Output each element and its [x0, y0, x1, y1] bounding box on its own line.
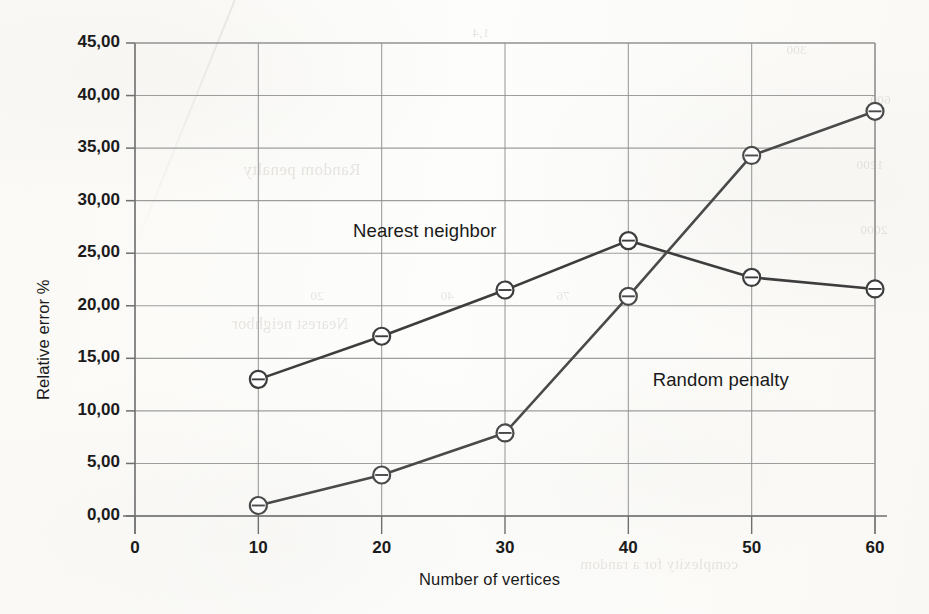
x-tick-label: 0: [105, 538, 165, 558]
x-tick-label: 60: [845, 538, 905, 558]
data-series-lines: [258, 111, 875, 505]
y-tick-label: 10,00: [30, 400, 120, 420]
x-tick-label: 30: [475, 538, 535, 558]
x-tick-label: 40: [598, 538, 658, 558]
series-line-1: [258, 111, 875, 505]
data-point-marker: [497, 282, 514, 299]
data-point-marker: [743, 269, 760, 286]
line-chart-plot: [0, 0, 929, 614]
data-point-marker: [497, 424, 514, 441]
x-tick-label: 10: [228, 538, 288, 558]
y-tick-label: 35,00: [30, 137, 120, 157]
data-point-marker: [250, 497, 267, 514]
x-tick-label: 50: [722, 538, 782, 558]
y-tick-label: 25,00: [30, 242, 120, 262]
y-tick-label: 40,00: [30, 85, 120, 105]
data-point-marker: [867, 103, 884, 120]
data-point-marker: [743, 147, 760, 164]
series-annotation-0: Nearest neighbor: [353, 220, 497, 242]
y-tick-label: 30,00: [30, 190, 120, 210]
series-annotation-1: Random penalty: [653, 369, 789, 391]
data-point-marker: [620, 232, 637, 249]
data-point-marker: [373, 328, 390, 345]
y-axis-title: Relative error %: [34, 279, 53, 400]
y-tick-label: 0,00: [30, 505, 120, 525]
data-series-markers: [250, 103, 884, 514]
y-tick-label: 45,00: [30, 32, 120, 52]
x-axis-title: Number of vertices: [419, 570, 560, 589]
data-point-marker: [250, 371, 267, 388]
chart-screenshot: Random penaltyNearest neighborcomplexity…: [0, 0, 929, 614]
x-tick-label: 20: [352, 538, 412, 558]
y-tick-label: 5,00: [30, 452, 120, 472]
data-point-marker: [620, 288, 637, 305]
data-point-marker: [373, 467, 390, 484]
data-point-marker: [867, 280, 884, 297]
